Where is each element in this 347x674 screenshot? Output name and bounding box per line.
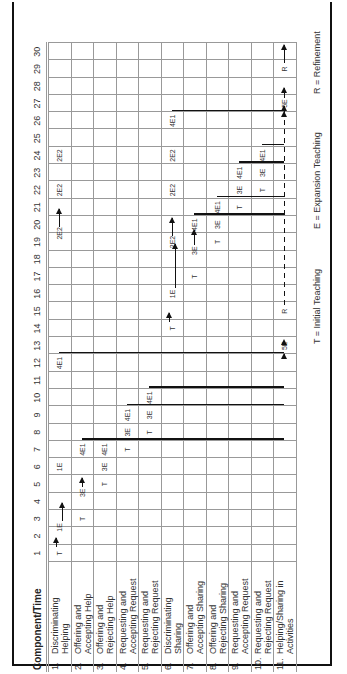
grid-line: [48, 215, 296, 216]
time-label: 28: [32, 78, 42, 95]
component-time-header: Component/Time: [32, 566, 43, 670]
grid-line: [48, 42, 296, 43]
grid-line: [48, 146, 296, 147]
time-label: 3: [32, 510, 42, 527]
schedule-mark: 2E2: [56, 184, 63, 196]
row-title: Offering and Rejecting Help: [95, 566, 115, 654]
schedule-mark: T: [236, 205, 243, 209]
schedule-mark: 3E: [258, 168, 265, 177]
row-title: Offering and Accepting Help: [73, 566, 93, 654]
time-label: 21: [32, 199, 42, 216]
row-number: 7.: [185, 654, 205, 670]
bracket-line: [172, 110, 285, 111]
schedule-mark: 2E2: [168, 149, 175, 161]
row-number: 3.: [95, 654, 115, 670]
schedule-mark: 4E1: [78, 443, 85, 455]
schedule-mark: 3E: [146, 411, 153, 420]
row-number: 10.: [253, 654, 273, 670]
bracket-line: [239, 161, 284, 162]
schedule-mark: 1E: [168, 290, 175, 299]
row-number: 6.: [163, 654, 183, 670]
schedule-mark: 3E: [191, 246, 198, 255]
time-label: 23: [32, 164, 42, 181]
teaching-schedule-table: Component/Time 1234567891011121314151617…: [28, 42, 296, 562]
row-number: 9.: [230, 654, 250, 670]
progression-arrow: [284, 112, 285, 114]
grid-line: [48, 475, 296, 476]
schedule-mark: R: [281, 66, 288, 71]
schedule-mark: R: [281, 309, 288, 314]
grid-line: [48, 129, 296, 130]
schedule-mark: T: [168, 326, 175, 330]
grid-line: [48, 163, 296, 164]
grid-line: [48, 544, 296, 545]
schedule-mark: 2E2: [168, 184, 175, 196]
grid-line: [48, 388, 296, 389]
grid-line: [183, 42, 184, 672]
progression-arrow: [194, 230, 195, 244]
row-label: 9.Requesting and Accepting Request: [230, 566, 250, 670]
schedule-mark: 1E: [56, 523, 63, 532]
progression-arrow: [62, 503, 63, 521]
row-label: 11.Helping/Sharing in Activities: [275, 566, 295, 670]
time-label: 4: [32, 493, 42, 510]
row-label: 10.Requesting and Rejecting Request: [253, 566, 273, 670]
grid-line: [206, 42, 207, 672]
time-label: 20: [32, 216, 42, 233]
grid-line: [48, 371, 296, 372]
progression-arrow: [82, 478, 83, 487]
grid-line: [48, 319, 296, 320]
time-label: 12: [32, 354, 42, 371]
time-label: 18: [32, 251, 42, 268]
time-label: 17: [32, 268, 42, 285]
grid-line: [48, 111, 296, 112]
row-title: Offering and Rejecting Sharing: [208, 566, 228, 654]
progression-arrow: [56, 538, 57, 547]
schedule-mark: T: [258, 188, 265, 192]
row-number: 2.: [73, 654, 93, 670]
time-label: 8: [32, 424, 42, 441]
row-label: 6.Discriminating Sharing: [163, 566, 183, 670]
time-label: 11: [32, 372, 42, 389]
row-label: 4.Requesting and Accepting Request: [118, 566, 138, 670]
schedule-mark: 3E: [123, 428, 130, 437]
schedule-mark: 3E: [213, 220, 220, 229]
grid-line: [48, 77, 296, 78]
grid-line: [48, 336, 296, 337]
schedule-mark: 4E1: [236, 167, 243, 179]
time-label: 24: [32, 147, 42, 164]
progression-arrow: [284, 88, 285, 97]
grid-line: [116, 42, 117, 672]
grid-line: [48, 457, 296, 458]
row-title: Offering and Accepting Sharing: [185, 566, 205, 654]
time-label: 6: [32, 458, 42, 475]
schedule-mark: 2E2: [56, 149, 63, 161]
grid-line: [48, 526, 296, 527]
progression-arrow: [59, 209, 60, 227]
grid-line: [48, 198, 296, 199]
schedule-mark: T: [123, 447, 130, 451]
progression-arrow: [169, 313, 170, 322]
row-title: Requesting and Rejecting Request: [140, 566, 160, 654]
legend-initial-teaching: T = Initial Teaching: [312, 269, 322, 344]
rotated-figure: Component/Time 1234567891011121314151617…: [0, 0, 347, 674]
row-label: 1.Discriminating Helping: [50, 566, 70, 670]
schedule-mark: 1E: [56, 463, 63, 472]
schedule-mark: 4E1: [146, 391, 153, 403]
schedule-mark: T: [146, 430, 153, 434]
time-label: 27: [32, 95, 42, 112]
row-label: 2.Offering and Accepting Help: [73, 566, 93, 670]
schedule-mark: T: [213, 240, 220, 244]
progression-arrow: [284, 354, 285, 356]
time-label: 15: [32, 303, 42, 320]
grid-line: [48, 509, 296, 510]
time-label: 1: [32, 545, 42, 562]
grid-line: [48, 405, 296, 406]
schedule-mark: T: [56, 551, 63, 555]
bracket-line: [194, 213, 284, 214]
grid-line: [48, 59, 296, 60]
grid-line: [228, 42, 229, 672]
time-label: 25: [32, 130, 42, 147]
legend-refinement: R = Refinement: [312, 31, 322, 94]
row-number: 8.: [208, 654, 228, 670]
